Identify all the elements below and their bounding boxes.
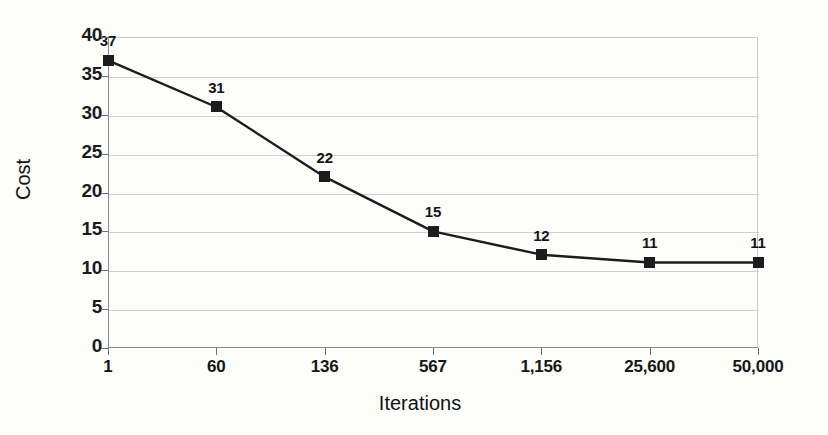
y-axis-title: Cost — [12, 135, 35, 225]
y-tick-mark — [101, 154, 108, 155]
x-axis-title: Iterations — [330, 392, 510, 415]
x-tick-label: 567 — [373, 357, 493, 377]
data-point-marker — [753, 257, 764, 268]
y-tick-label: 15 — [62, 218, 102, 240]
data-point-marker — [644, 257, 655, 268]
data-point-label: 37 — [78, 32, 138, 49]
gridline — [109, 77, 759, 78]
y-tick-mark — [101, 348, 108, 349]
data-point-marker — [103, 55, 114, 66]
data-point-label: 22 — [295, 149, 355, 166]
data-point-label: 11 — [728, 234, 788, 251]
y-tick-mark — [101, 231, 108, 232]
data-point-marker — [536, 249, 547, 260]
y-tick-label: 20 — [62, 180, 102, 202]
x-tick-mark — [216, 348, 217, 355]
x-tick-label: 1,156 — [481, 357, 601, 377]
data-point-label: 15 — [403, 203, 463, 220]
y-tick-label: 10 — [62, 257, 102, 279]
x-tick-mark — [325, 348, 326, 355]
chart-figure: Cost 0510152025303540 1601365671,15625,6… — [0, 0, 828, 435]
y-tick-mark — [101, 37, 108, 38]
data-point-marker — [211, 101, 222, 112]
y-tick-mark — [101, 76, 108, 77]
gridline — [109, 155, 759, 156]
x-tick-label: 60 — [156, 357, 276, 377]
y-tick-label: 35 — [62, 63, 102, 85]
y-tick-label: 30 — [62, 102, 102, 124]
x-tick-mark — [541, 348, 542, 355]
data-point-label: 11 — [620, 234, 680, 251]
data-point-marker — [319, 171, 330, 182]
gridline — [109, 310, 759, 311]
x-tick-label: 136 — [265, 357, 385, 377]
y-tick-label: 0 — [62, 335, 102, 357]
x-tick-mark — [433, 348, 434, 355]
y-tick-mark — [101, 270, 108, 271]
data-point-marker — [428, 226, 439, 237]
x-tick-label: 50,000 — [698, 357, 818, 377]
y-tick-mark — [101, 115, 108, 116]
x-tick-label: 25,600 — [590, 357, 710, 377]
x-tick-mark — [108, 348, 109, 355]
y-tick-label: 25 — [62, 141, 102, 163]
y-tick-mark — [101, 309, 108, 310]
x-tick-mark — [650, 348, 651, 355]
gridline — [109, 116, 759, 117]
x-tick-label: 1 — [48, 357, 168, 377]
data-point-label: 31 — [186, 79, 246, 96]
y-tick-mark — [101, 193, 108, 194]
gridline — [109, 271, 759, 272]
y-tick-label: 5 — [62, 296, 102, 318]
x-tick-mark — [758, 348, 759, 355]
gridline — [109, 194, 759, 195]
data-point-label: 12 — [511, 227, 571, 244]
